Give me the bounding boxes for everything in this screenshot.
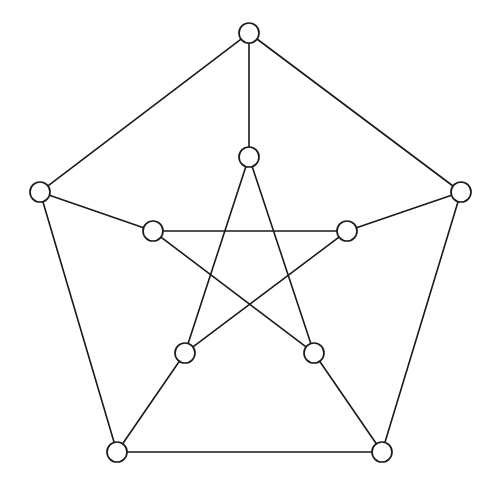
graph-edge-inner-right-to-inner-bottom-left (193, 237, 339, 347)
graph-edge-inner-top-to-inner-bottom-right (252, 166, 311, 343)
graph-edge-outer-bottom-right-to-inner-bottom-right (320, 361, 377, 444)
graph-edge-outer-bottom-left-to-inner-bottom-left (123, 361, 180, 444)
vertex-layer (30, 23, 471, 462)
graph-edge-inner-bottom-left-to-inner-top (188, 167, 246, 344)
edge-layer (43, 39, 458, 452)
graph-vertex-outer-bottom-left (107, 442, 127, 462)
graph-vertex-outer-bottom-right (372, 442, 392, 462)
graph-vertex-inner-right (337, 221, 357, 241)
graph-vertex-inner-bottom-left (175, 343, 195, 363)
graph-edge-outer-left-to-outer-top (48, 39, 241, 186)
graph-vertex-outer-top (239, 23, 259, 43)
graph-canvas (0, 0, 499, 491)
graph-vertex-inner-bottom-right (304, 343, 324, 363)
graph-vertex-inner-left (143, 221, 163, 241)
graph-edge-inner-bottom-right-to-inner-left (161, 237, 306, 347)
graph-vertex-inner-top (239, 147, 259, 167)
graph-edge-outer-left-to-inner-left (49, 195, 143, 227)
graph-edge-outer-top-to-outer-right (257, 39, 453, 186)
graph-edge-outer-right-to-outer-bottom-right (385, 202, 458, 443)
graph-vertex-outer-right (451, 182, 471, 202)
graph-vertex-outer-left (30, 182, 50, 202)
graph-edge-outer-right-to-inner-right (356, 195, 451, 228)
petersen-graph-figure (0, 0, 499, 491)
graph-edge-outer-bottom-left-to-outer-left (43, 202, 114, 443)
